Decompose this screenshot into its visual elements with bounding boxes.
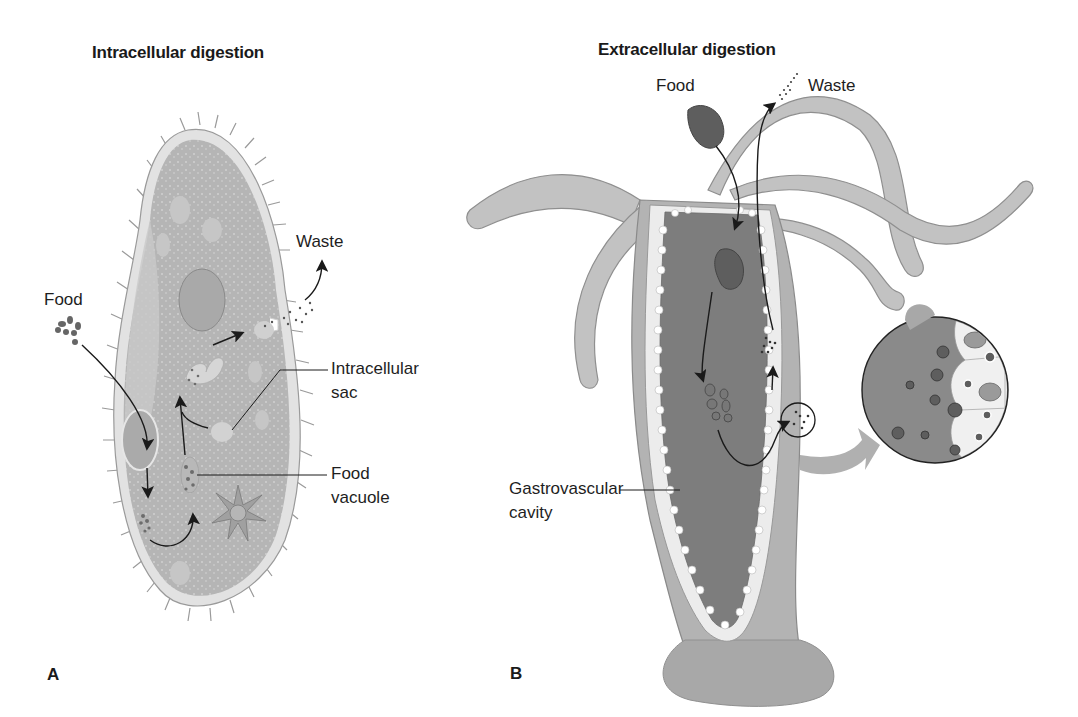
panel-a-waste-label: Waste bbox=[296, 230, 344, 254]
diagram-canvas bbox=[0, 0, 1078, 717]
gastrovascular-cavity-label-line1: Gastrovascular bbox=[509, 477, 623, 501]
gastrovascular-cavity-label: Gastrovascular cavity bbox=[509, 477, 623, 525]
food-vacuole-label: Food vacuole bbox=[331, 462, 390, 510]
panel-b-waste-label: Waste bbox=[808, 74, 856, 98]
intracellular-sac-label-line2: sac bbox=[331, 381, 419, 405]
panel-a-food-label: Food bbox=[44, 288, 83, 312]
paramecium-illustration bbox=[55, 112, 328, 621]
panel-b-letter: B bbox=[510, 664, 522, 684]
intracellular-sac-label: Intracellular sac bbox=[331, 357, 419, 405]
intracellular-sac-label-line1: Intracellular bbox=[331, 357, 419, 381]
panel-a-letter: A bbox=[47, 665, 59, 685]
magnified-inset bbox=[862, 304, 1020, 470]
panel-a-title: Intracellular digestion bbox=[92, 43, 264, 63]
panel-b-title: Extracellular digestion bbox=[598, 40, 776, 60]
food-vacuole-label-line1: Food bbox=[331, 462, 390, 486]
panel-b-food-label: Food bbox=[656, 74, 695, 98]
gastrovascular-cavity-label-line2: cavity bbox=[509, 501, 623, 525]
food-vacuole-label-line2: vacuole bbox=[331, 486, 390, 510]
